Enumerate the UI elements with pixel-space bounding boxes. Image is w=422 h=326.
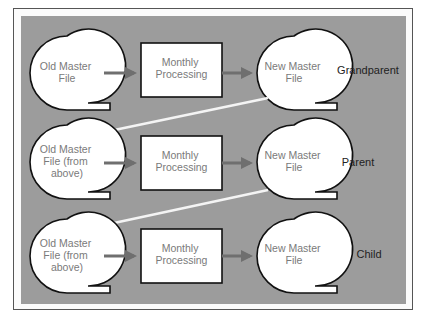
svg-text:Monthly Processing: Monthly Processing	[156, 149, 208, 173]
generation-label-child: Child	[356, 248, 381, 260]
row-grandparent: Old Master File Monthly Processing New M…	[30, 29, 399, 110]
svg-text:Monthly Processing: Monthly Processing	[156, 56, 208, 80]
monthly-processing-box-2: Monthly Processing	[141, 136, 222, 190]
old-master-file-tape-1: Old Master File	[30, 29, 126, 110]
old-master-file-tape-3: Old Master File (from above)	[30, 212, 126, 293]
row-child: Old Master File (from above) Monthly Pro…	[30, 212, 382, 293]
carry-forward-arrow-icon	[100, 190, 268, 226]
carry-forward-arrow-icon	[100, 98, 268, 133]
row-parent: Old Master File (from above) Monthly Pro…	[30, 118, 374, 199]
monthly-processing-box-3: Monthly Processing	[141, 229, 222, 283]
new-master-file-tape-2: New Master File	[257, 118, 353, 199]
old-master-file-tape-2: Old Master File (from above)	[30, 118, 126, 199]
generation-label-parent: Parent	[342, 156, 374, 168]
grandparent-parent-child-diagram: Old Master File Monthly Processing New M…	[0, 0, 422, 326]
new-master-file-tape-3: New Master File	[257, 212, 353, 293]
generation-label-grandparent: Grandparent	[337, 64, 399, 76]
svg-text:Monthly Processing: Monthly Processing	[156, 242, 208, 266]
monthly-processing-box-1: Monthly Processing	[141, 43, 222, 97]
